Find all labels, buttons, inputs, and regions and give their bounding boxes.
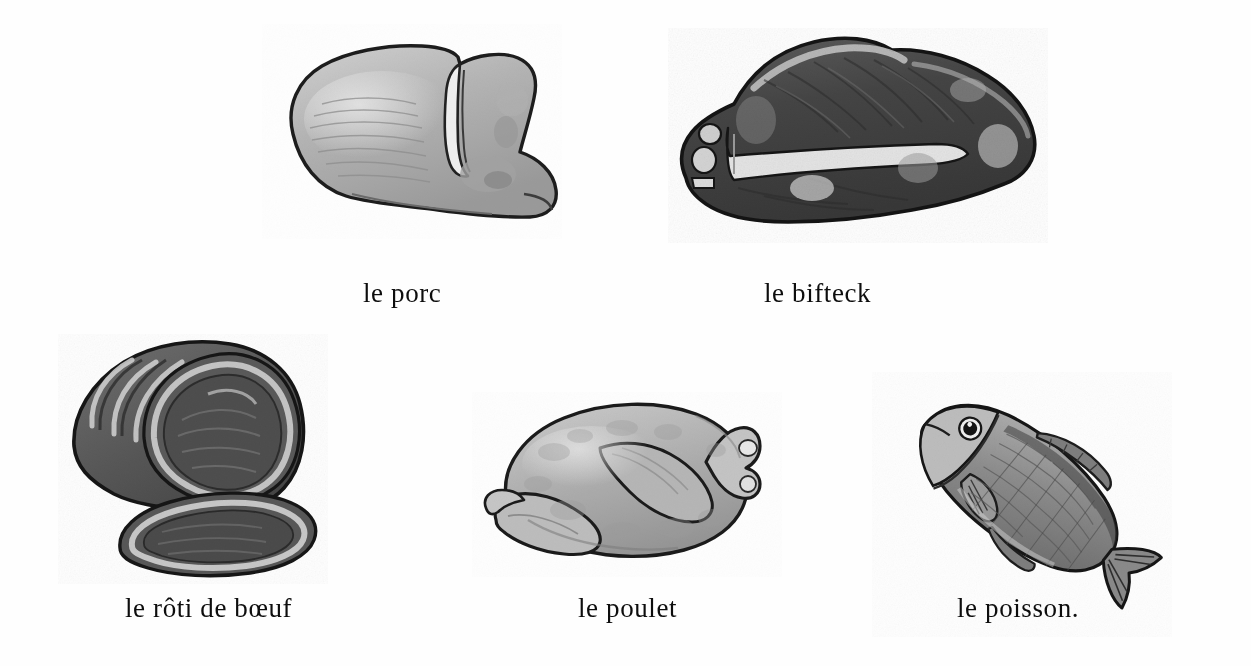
caption-bifteck: le bifteck xyxy=(764,280,871,307)
caption-roti-de-boeuf: le rôti de bœuf xyxy=(125,595,292,622)
vocabulary-plate: le porc xyxy=(0,0,1251,666)
caption-poulet: le poulet xyxy=(578,595,677,622)
roast-beef-illustration xyxy=(58,334,328,584)
pork-chop-illustration xyxy=(262,24,562,239)
whole-chicken-illustration xyxy=(472,392,782,577)
t-bone-steak-illustration xyxy=(668,28,1048,243)
caption-poisson: le poisson. xyxy=(957,595,1079,622)
caption-porc: le porc xyxy=(363,280,441,307)
